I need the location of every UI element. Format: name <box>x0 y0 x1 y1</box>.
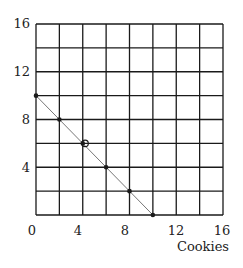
x-tick-label: 16 <box>214 223 231 238</box>
x-axis-ticks: 0 4 8 12 16 <box>28 223 230 238</box>
y-axis-ticks: 4 8 12 16 <box>13 16 30 175</box>
grid <box>36 24 223 215</box>
x-tick-label: 0 <box>28 223 36 238</box>
data-point <box>34 93 39 98</box>
y-tick-label: 12 <box>13 64 30 79</box>
data-series <box>34 93 155 217</box>
data-point <box>151 213 156 218</box>
y-tick-label: 8 <box>22 112 30 127</box>
x-tick-label: 4 <box>74 223 82 238</box>
series-line <box>36 96 153 215</box>
x-axis-label: Cookies <box>177 239 229 254</box>
data-point <box>57 117 62 122</box>
x-tick-label: 12 <box>168 223 185 238</box>
chart: 4 8 12 16 0 4 8 12 16 Cookies <box>0 0 243 268</box>
data-point <box>104 165 109 170</box>
y-tick-label: 16 <box>13 16 30 31</box>
y-tick-label: 4 <box>22 160 30 175</box>
x-tick-label: 8 <box>121 223 129 238</box>
data-point <box>127 189 132 194</box>
